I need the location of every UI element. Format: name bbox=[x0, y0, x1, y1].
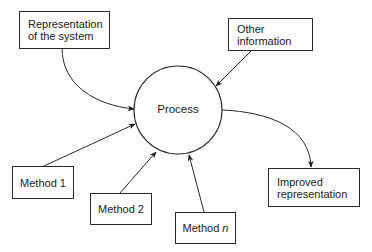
box-method-n: Method n bbox=[175, 212, 236, 244]
box-representation-of-system: Representation of the system bbox=[19, 11, 110, 49]
box-label: Representation of the system bbox=[28, 18, 103, 42]
process-label: Process bbox=[150, 103, 206, 115]
box-method-2: Method 2 bbox=[90, 193, 152, 225]
arrow-method2-to-process bbox=[120, 152, 156, 193]
box-label: Improved representation bbox=[277, 176, 347, 200]
arrow-methodn-to-process bbox=[189, 155, 204, 212]
box-label: Method 1 bbox=[20, 177, 66, 189]
box-other-information: Other information bbox=[228, 18, 313, 51]
method-n-prefix: Method bbox=[183, 222, 223, 234]
arrow-other-to-process bbox=[216, 50, 252, 86]
box-method-1: Method 1 bbox=[12, 166, 74, 199]
arrow-representation-to-process bbox=[62, 48, 134, 109]
box-label: Method n bbox=[183, 222, 229, 234]
method-n-variable: n bbox=[222, 222, 228, 234]
arrow-method1-to-process bbox=[44, 124, 135, 166]
arrow-process-to-improved bbox=[222, 110, 311, 167]
box-label: Other information bbox=[237, 23, 291, 47]
box-label: Method 2 bbox=[98, 203, 144, 215]
box-improved-representation: Improved representation bbox=[268, 168, 360, 207]
